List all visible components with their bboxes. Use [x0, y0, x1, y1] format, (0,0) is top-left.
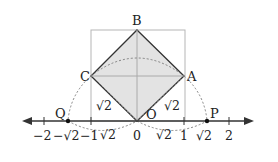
number-line-diagram: B C A O Q P √2 √2 −2 −√2 −1 √2 0 √2 1 √2… [0, 0, 278, 162]
label-B: B [132, 13, 142, 28]
arrow-left-icon [22, 117, 32, 125]
label-arc-right-length: √2 [156, 127, 172, 142]
label-P: P [210, 106, 219, 121]
tick-label-1: 1 [180, 128, 188, 143]
label-C: C [80, 69, 90, 84]
label-O: O [146, 107, 157, 122]
tick-label-minus-root2: −√2 [53, 128, 79, 143]
label-Q: Q [55, 106, 66, 121]
label-A: A [186, 69, 197, 84]
label-arc-left-length: √2 [100, 127, 116, 142]
diagram-frame: B C A O Q P √2 √2 −2 −√2 −1 √2 0 √2 1 √2… [0, 0, 278, 162]
label-OC-length: √2 [96, 98, 112, 113]
tick-label-2: 2 [225, 128, 233, 143]
tick-label-minus-2: −2 [33, 128, 51, 143]
point-P [205, 119, 209, 123]
label-OA-length: √2 [164, 98, 180, 113]
tick-label-root2: √2 [196, 128, 212, 143]
arrow-right-icon [244, 117, 254, 125]
tick-label-minus-1: −1 [80, 128, 98, 143]
point-Q [66, 119, 70, 123]
tick-label-0: 0 [133, 128, 141, 143]
